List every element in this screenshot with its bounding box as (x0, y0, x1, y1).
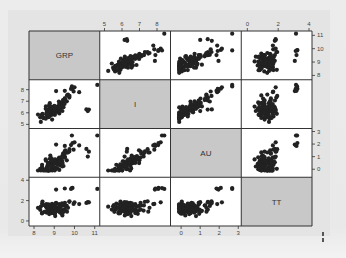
data-point (215, 202, 219, 206)
data-point (128, 57, 132, 61)
data-point (117, 165, 121, 169)
data-point (265, 93, 269, 97)
data-point (77, 90, 81, 94)
data-point (259, 93, 263, 97)
tick-label: 5 (103, 21, 107, 27)
data-point (44, 159, 48, 163)
data-point (274, 150, 278, 154)
data-point (135, 154, 139, 158)
data-point (70, 133, 74, 137)
tick-label: 2 (218, 230, 222, 236)
data-point (257, 113, 261, 117)
data-point (192, 66, 196, 70)
tick-label: 8 (155, 21, 159, 27)
data-point (36, 168, 40, 172)
scatter-panel-i-vs-grp (29, 80, 100, 129)
data-point (274, 85, 278, 89)
data-point (204, 210, 208, 214)
data-point (53, 157, 57, 161)
tick-label: 11 (92, 230, 99, 236)
data-point (198, 38, 202, 42)
data-point (295, 133, 299, 137)
data-point (40, 165, 44, 169)
data-point (200, 63, 204, 67)
data-point (137, 204, 141, 208)
data-point (128, 207, 132, 211)
data-point (216, 87, 220, 91)
data-point (133, 161, 137, 165)
data-point (269, 159, 273, 163)
data-point (206, 200, 210, 204)
data-point (263, 114, 267, 118)
tick-label: 0 (179, 230, 183, 236)
data-point (267, 120, 271, 124)
data-point (117, 68, 121, 72)
data-point (230, 32, 234, 36)
variable-label: GRP (56, 51, 73, 60)
data-point (60, 155, 64, 159)
data-point (185, 63, 189, 67)
tick-label: 2 (317, 141, 321, 147)
data-point (191, 207, 195, 211)
data-point (294, 87, 298, 91)
tick-label: 10 (71, 230, 78, 236)
data-point (128, 168, 132, 172)
scatter-panel-grp-vs-i (100, 31, 171, 80)
data-point (263, 57, 267, 61)
tick-label: 8 (21, 87, 25, 93)
data-point (65, 210, 69, 214)
data-point (293, 59, 297, 63)
tick-label: 2 (21, 198, 25, 204)
data-point (160, 133, 164, 137)
data-point (191, 110, 195, 114)
data-point (42, 168, 46, 172)
data-point (216, 59, 220, 63)
data-point (130, 66, 134, 70)
data-point (152, 202, 156, 206)
variable-label: I (134, 100, 136, 109)
tick-label: 0 (21, 218, 25, 224)
scatter-panel-grp-vs-au (171, 31, 242, 80)
data-point (271, 112, 275, 116)
scatter-panel-au-vs-grp (29, 129, 100, 178)
data-point (57, 159, 61, 163)
data-point (260, 165, 264, 169)
tick-label: 5 (21, 121, 25, 127)
variable-label: TT (272, 198, 282, 207)
data-point (137, 53, 141, 57)
data-point (44, 104, 48, 108)
data-point (274, 140, 278, 144)
data-point (162, 32, 166, 36)
data-point (123, 155, 127, 159)
data-point (63, 144, 67, 148)
data-point (253, 59, 257, 63)
tick-label: 2 (276, 21, 280, 27)
data-point (63, 186, 67, 190)
tick-label: 9 (53, 230, 57, 236)
data-point (253, 157, 257, 161)
data-point (48, 204, 52, 208)
data-point (121, 159, 125, 163)
tick-label: 11 (317, 32, 324, 38)
data-point (264, 110, 268, 114)
data-point (67, 147, 71, 151)
data-point (133, 211, 137, 215)
tick-label: 4 (21, 177, 25, 183)
data-point (275, 94, 279, 98)
data-point (215, 44, 219, 48)
data-point (294, 32, 298, 36)
data-point (123, 38, 127, 42)
data-point (194, 59, 198, 63)
data-point (185, 109, 189, 113)
data-point (152, 47, 156, 51)
data-point (209, 89, 213, 93)
data-point (110, 61, 114, 65)
data-point (95, 83, 99, 87)
data-point (206, 37, 210, 41)
data-point (112, 210, 116, 214)
data-point (272, 55, 276, 59)
data-point (134, 63, 138, 67)
data-point (177, 60, 181, 64)
data-point (57, 106, 61, 110)
data-point (46, 114, 50, 118)
